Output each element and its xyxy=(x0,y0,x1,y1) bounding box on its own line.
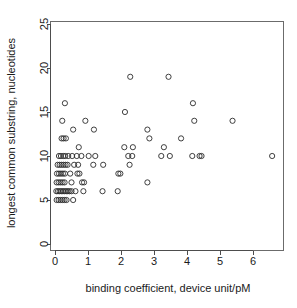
data-point xyxy=(83,118,88,123)
x-axis-title: binding coefficient, device unit/pM xyxy=(86,282,251,294)
data-point xyxy=(166,74,171,79)
scatter-plot-figure: 0510152025 0123456 binding coefficient, … xyxy=(0,0,297,308)
data-point xyxy=(178,136,183,141)
x-tick-label: 3 xyxy=(151,255,157,267)
data-points-layer xyxy=(54,74,275,202)
x-tick-label: 1 xyxy=(85,255,91,267)
data-point xyxy=(93,153,98,158)
data-point xyxy=(145,127,150,132)
data-point xyxy=(91,162,96,167)
data-point xyxy=(190,101,195,106)
data-point xyxy=(192,118,197,123)
data-point xyxy=(100,189,105,194)
data-point xyxy=(130,145,135,150)
data-point xyxy=(62,101,67,106)
x-tick-label: 0 xyxy=(52,255,58,267)
y-axis-title: longest common substring, nucleotides xyxy=(5,37,17,228)
y-tick-label: 15 xyxy=(38,106,50,118)
data-point xyxy=(86,153,91,158)
y-tick-label: 25 xyxy=(38,18,50,30)
data-point xyxy=(145,180,150,185)
data-point xyxy=(69,180,74,185)
data-point xyxy=(71,127,76,132)
data-point xyxy=(73,189,78,194)
data-point xyxy=(270,153,275,158)
data-point xyxy=(147,136,152,141)
plot-frame xyxy=(51,22,284,251)
data-point xyxy=(161,145,166,150)
data-point xyxy=(127,162,132,167)
data-point xyxy=(81,189,86,194)
data-point xyxy=(115,189,120,194)
y-tick-label: 10 xyxy=(38,150,50,162)
data-point xyxy=(130,153,135,158)
data-point xyxy=(128,74,133,79)
data-point xyxy=(122,109,127,114)
data-point xyxy=(76,145,81,150)
x-tick-label: 4 xyxy=(184,255,190,267)
data-point xyxy=(91,127,96,132)
data-point xyxy=(190,153,195,158)
y-tick-label: 20 xyxy=(38,62,50,74)
data-point xyxy=(71,197,76,202)
x-axis: 0123456 xyxy=(52,251,256,267)
data-point xyxy=(60,118,65,123)
x-tick-label: 6 xyxy=(250,255,256,267)
data-point xyxy=(167,153,172,158)
y-axis: 0510152025 xyxy=(38,18,51,247)
data-point xyxy=(122,145,127,150)
data-point xyxy=(101,162,106,167)
data-point xyxy=(76,162,81,167)
y-tick-label: 5 xyxy=(38,197,50,203)
data-point xyxy=(159,153,164,158)
data-point xyxy=(230,118,235,123)
data-point xyxy=(68,171,73,176)
plot-canvas: 0510152025 0123456 binding coefficient, … xyxy=(0,0,297,308)
x-tick-label: 5 xyxy=(217,255,223,267)
x-tick-label: 2 xyxy=(118,255,124,267)
y-tick-label: 0 xyxy=(38,241,50,247)
